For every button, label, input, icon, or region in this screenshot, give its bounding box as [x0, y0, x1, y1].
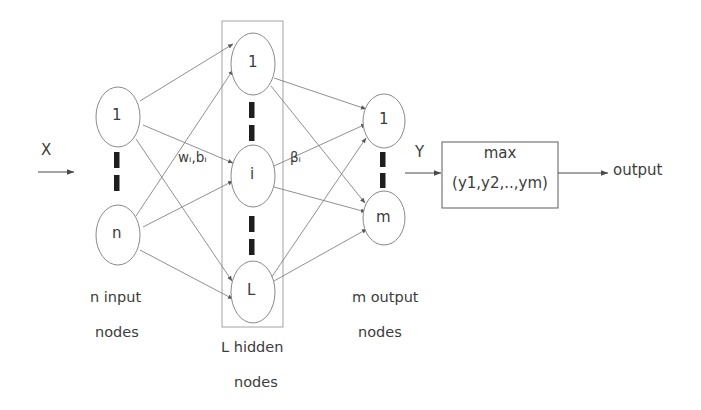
output-ellipsis-dash-1 — [380, 152, 386, 167]
edge-inn-hid1 — [136, 70, 233, 216]
edge-hidi-outm — [274, 187, 366, 212]
node-label-output-m: m — [376, 210, 391, 226]
hidden-ellipsis-dash-2 — [249, 125, 255, 141]
beta-label: βᵢ — [290, 150, 301, 164]
input-signal-label: X — [41, 143, 51, 159]
beta-text: βᵢ — [290, 149, 301, 165]
edge-inn-hidL — [140, 250, 233, 299]
max-block-line1: max — [442, 146, 558, 162]
network-graphic — [0, 0, 701, 410]
input-layer-caption-line2: nodes — [95, 325, 139, 340]
weights-bias-text: wᵢ,bᵢ — [178, 149, 207, 165]
input-ellipsis-dash-1 — [114, 152, 120, 168]
input-layer-caption-line1: n input — [90, 290, 141, 305]
edge-in1-hid1 — [140, 44, 233, 101]
node-label-input-n: n — [112, 226, 122, 242]
input-ellipsis-dash-2 — [114, 175, 120, 191]
node-label-hidden-1: 1 — [248, 55, 258, 71]
edge-hidL-outm — [274, 229, 367, 281]
node-label-input-1: 1 — [112, 108, 122, 124]
hidden-ellipsis-dash-4 — [249, 239, 255, 255]
weights-bias-label: wᵢ,bᵢ — [178, 150, 207, 164]
elm-diagram: 1 n 1 i L 1 m X Y output wᵢ,bᵢ βᵢ max (y… — [0, 0, 701, 410]
output-ellipsis-dash-2 — [380, 173, 386, 188]
hidden-layer-caption-line1: L hidden — [221, 340, 283, 355]
output-layer-caption-line1: m output — [352, 290, 419, 305]
node-label-hidden-L: L — [247, 283, 255, 299]
edge-hidi-out1 — [274, 124, 366, 166]
hidden-ellipsis-dash-1 — [249, 102, 255, 118]
node-label-output-1: 1 — [379, 112, 389, 128]
output-layer-caption-line2: nodes — [358, 325, 402, 340]
edge-inn-hidi — [143, 181, 233, 227]
y-signal-label: Y — [415, 145, 424, 161]
hidden-layer-caption-line2: nodes — [234, 375, 278, 390]
edge-group-hidden-output — [271, 78, 367, 281]
edge-group-input-hidden — [136, 44, 233, 299]
node-label-hidden-i: i — [250, 167, 254, 183]
edge-hid1-out1 — [274, 78, 366, 109]
hidden-ellipsis-dash-3 — [249, 216, 255, 232]
output-label: output — [613, 163, 662, 179]
max-block-line2: (y1,y2,..,ym) — [442, 176, 558, 192]
